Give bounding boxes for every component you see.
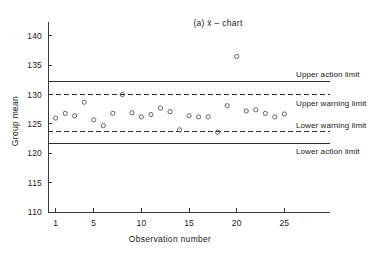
upper-warning-limit-label: Upper warning limit xyxy=(296,99,367,108)
data-point xyxy=(225,104,229,108)
x-tick-label: 1 xyxy=(53,218,58,228)
data-point xyxy=(111,111,115,115)
y-tick-label: 110 xyxy=(28,207,42,217)
lower-warning-limit-label: Lower warning limit xyxy=(296,121,367,130)
data-point xyxy=(263,111,267,115)
data-point xyxy=(282,112,286,116)
data-point xyxy=(216,130,220,134)
data-point xyxy=(244,109,248,113)
data-point xyxy=(273,115,277,119)
data-point xyxy=(139,115,143,119)
y-tick-label: 115 xyxy=(28,178,42,188)
data-point xyxy=(63,111,67,115)
x-tick-label: 5 xyxy=(91,218,96,228)
y-tick-label: 140 xyxy=(27,31,42,41)
data-point xyxy=(235,54,239,58)
y-tick-label: 125 xyxy=(27,119,42,129)
data-point xyxy=(168,110,172,114)
x-tick-label: 15 xyxy=(184,218,194,228)
y-tick-label: 130 xyxy=(27,90,42,100)
xbar-control-chart: 1101151201251301351401510152025Observati… xyxy=(0,0,391,263)
y-tick-label: 120 xyxy=(27,148,42,158)
y-tick-label: 135 xyxy=(27,60,42,70)
data-point xyxy=(196,115,200,119)
data-point xyxy=(187,114,191,118)
upper-action-limit-label: Upper action limit xyxy=(296,70,360,79)
data-point xyxy=(149,112,153,116)
data-point xyxy=(54,116,58,120)
x-tick-label: 10 xyxy=(136,218,146,228)
lower-action-limit-label: Lower action limit xyxy=(296,147,360,156)
y-axis-title: Group mean xyxy=(10,96,20,146)
x-tick-label: 25 xyxy=(279,218,289,228)
x-axis-title: Observation number xyxy=(129,234,211,244)
data-point xyxy=(82,100,86,104)
data-point xyxy=(158,106,162,110)
data-point xyxy=(92,118,96,122)
chart-page: 1101151201251301351401510152025Observati… xyxy=(0,0,391,263)
data-point xyxy=(206,115,210,119)
chart-title: (a) x̄ – chart xyxy=(193,18,243,28)
x-tick-label: 20 xyxy=(232,218,242,228)
data-point xyxy=(254,108,258,112)
data-point xyxy=(130,111,134,115)
data-point xyxy=(73,114,77,118)
data-point xyxy=(101,124,105,128)
